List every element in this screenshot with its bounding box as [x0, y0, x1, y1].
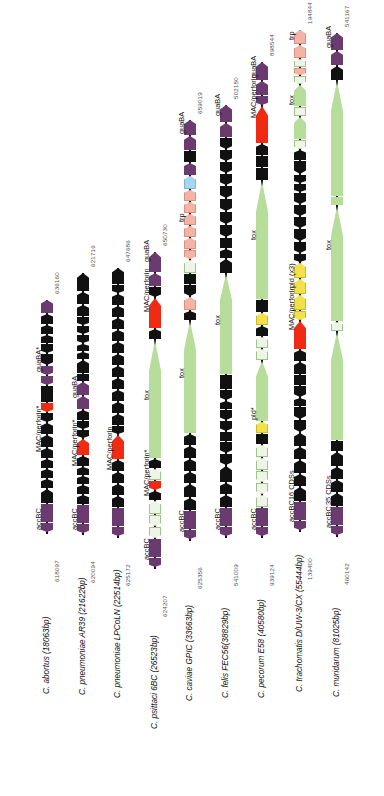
gene-arrow: [220, 174, 232, 185]
gene-arrow: [112, 306, 124, 317]
gene-body: [256, 495, 268, 507]
gene-body: [331, 441, 343, 451]
gene-body: [256, 181, 268, 299]
gene-body: [41, 335, 53, 343]
gene-arrow: [77, 495, 89, 504]
gene-arrow: [184, 311, 196, 320]
gene-arrow: [184, 238, 196, 249]
gene-body: [184, 498, 196, 510]
gene-body: [184, 274, 196, 284]
gene-arrow: [294, 521, 306, 530]
gene-arrow: [294, 217, 306, 228]
gene-arrow: [256, 434, 268, 444]
coordinate-bottom: 460142: [344, 563, 350, 585]
gene-name-label: trp: [178, 213, 185, 222]
gene-body: [184, 202, 196, 213]
gene-arrow: [77, 326, 89, 334]
gene-body: [112, 330, 124, 341]
gene-name-label: tox: [214, 315, 221, 325]
gene-arrow: [77, 305, 89, 316]
species-label: C. pneumoniae LPCoLN (22514bp): [114, 570, 122, 698]
gene-arrow: [112, 342, 124, 353]
gene-name-label: guaBA: [325, 26, 332, 48]
gene-arrow: [256, 326, 268, 336]
gene-arrow: [41, 489, 53, 503]
gene-body: [41, 386, 53, 402]
gene-arrow: [184, 459, 196, 471]
gene-body: [294, 193, 306, 204]
gene-arrow: [112, 318, 124, 329]
gene-body: [294, 205, 306, 216]
gene-name-label: tox: [325, 240, 332, 250]
gene-body: [41, 300, 53, 313]
gene-body: [112, 342, 124, 353]
cds-count-label: 35 CDSs: [325, 475, 332, 505]
gene-body: [331, 81, 343, 196]
gene-body: [294, 59, 306, 67]
gene-body: [256, 422, 268, 433]
gene-arrow: [77, 335, 89, 343]
gene-arrow: [41, 376, 53, 385]
gene-arrow: [220, 186, 232, 198]
species-label: C. pneumoniae AR39 (21622bp): [79, 577, 87, 695]
gene-body: [112, 285, 124, 293]
gene-arrow: [149, 501, 161, 514]
cds-count-label: 16 CDSs: [288, 470, 295, 500]
gene-body: [77, 476, 89, 484]
species-label: C. abortus (18063bp): [43, 617, 51, 694]
gene-arrow: [112, 508, 124, 526]
gene-arrow: [331, 322, 343, 331]
gene-body: [184, 285, 196, 296]
gene-body: [184, 472, 196, 483]
gene-body: [77, 305, 89, 316]
gene-body: [331, 322, 343, 331]
coordinate-top: 194844: [307, 2, 313, 24]
gene-arrow: [220, 466, 232, 482]
gene-arrow: [112, 527, 124, 536]
gene-body: [294, 254, 306, 262]
coordinate-top: 898544: [269, 34, 275, 56]
gene-body: [149, 515, 161, 526]
gene-arrow: [294, 420, 306, 432]
gene-arrow: [184, 274, 196, 284]
gene-body: [77, 495, 89, 504]
gene-arrow: [256, 458, 268, 470]
gene-body: [77, 485, 89, 494]
gene-body: [331, 206, 343, 321]
gene-arrow: [294, 229, 306, 241]
gene-arrow: [112, 496, 124, 507]
gene-arrow: [331, 197, 343, 205]
gene-body: [294, 107, 306, 116]
gene-body: [77, 317, 89, 325]
coordinate-top: 659019: [197, 92, 203, 114]
gene-name-label: accBC: [35, 508, 42, 530]
gene-arrow: [294, 161, 306, 174]
gene-arrow: [77, 273, 89, 291]
gene-arrow: [41, 300, 53, 313]
gene-arrow: [294, 386, 306, 397]
gene-body: [220, 199, 232, 211]
gene-arrow: [184, 472, 196, 483]
gene-body: [77, 292, 89, 304]
gene-body: [256, 471, 268, 482]
gene-body: [256, 168, 268, 180]
gene-arrow: [256, 483, 268, 494]
gene-body: [149, 329, 161, 339]
gene-body: [220, 483, 232, 494]
gene-body: [331, 197, 343, 205]
gene-arrow: [184, 484, 196, 497]
gene-body: [184, 151, 196, 162]
gene-body: [220, 410, 232, 420]
gene-body: [220, 174, 232, 185]
gene-body: [77, 344, 89, 351]
gene-arrow: [112, 484, 124, 495]
gene-body: [294, 398, 306, 406]
gene-arrow: [220, 199, 232, 211]
gene-arrow: [112, 402, 124, 413]
gene-body: [220, 466, 232, 482]
gene-body: [220, 259, 232, 273]
gene-arrow: [220, 410, 232, 420]
gene-arrow: [256, 471, 268, 482]
gene-name-label: guaBA: [214, 94, 221, 116]
gene-arrow: [41, 335, 53, 343]
